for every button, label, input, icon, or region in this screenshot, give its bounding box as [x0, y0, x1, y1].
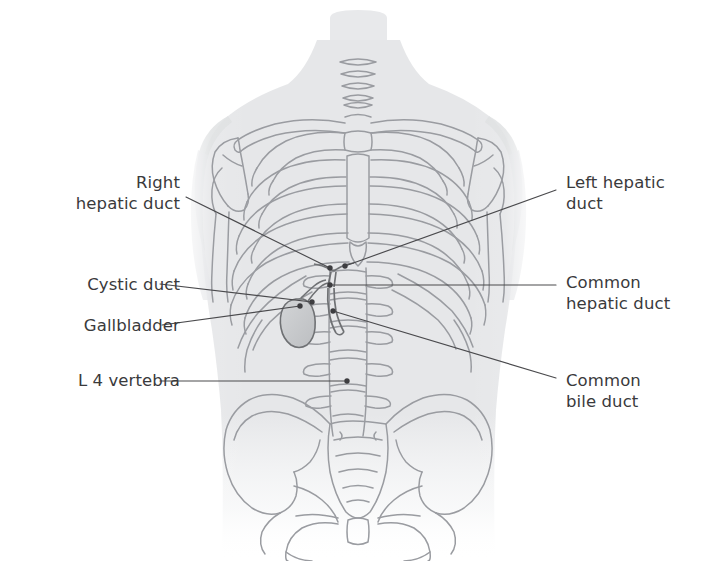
dot-l4-vertebra	[344, 378, 349, 383]
label-gallbladder: Gallbladder	[35, 315, 180, 336]
label-common-bile-duct: Common bile duct	[566, 370, 716, 412]
dot-common-bile-duct	[330, 308, 335, 313]
anatomy-figure: Right hepatic duct Cystic duct Gallbladd…	[0, 0, 717, 561]
label-common-hepatic-duct: Common hepatic duct	[566, 272, 716, 314]
dot-cystic-duct	[309, 299, 314, 304]
dot-right-hepatic-duct	[327, 265, 332, 270]
label-l4-vertebra: L 4 vertebra	[35, 370, 180, 391]
dot-common-hepatic-duct	[327, 282, 332, 287]
label-cystic-duct: Cystic duct	[35, 274, 180, 295]
label-left-hepatic-duct: Left hepatic duct	[566, 172, 716, 214]
dot-left-hepatic-duct	[342, 263, 347, 268]
label-right-hepatic-duct: Right hepatic duct	[35, 172, 180, 214]
dot-gallbladder	[297, 303, 302, 308]
